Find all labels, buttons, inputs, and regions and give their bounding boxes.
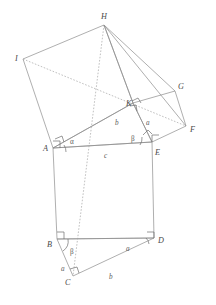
side-label-a-left: a — [61, 265, 65, 273]
line-H-to-G — [104, 25, 175, 91]
vertex-label-H: H — [100, 12, 108, 21]
side-label-b-upper: b — [115, 119, 119, 127]
right-angle-mark-B — [57, 232, 64, 239]
vertex-label-E: E — [154, 148, 160, 157]
angle-arc-beta-E — [140, 137, 142, 145]
angle-label-beta-E: β — [131, 135, 135, 143]
dash-I-to-F — [23, 59, 186, 126]
angle-label-beta-B: β — [70, 248, 74, 256]
vertex-label-K: K — [125, 99, 132, 108]
right-angle-mark-D — [147, 232, 154, 238]
side-label-a-right: a — [126, 245, 130, 253]
geometric-figure: H I G K F A E B D C α b a β c β a a b — [0, 0, 216, 305]
right-angle-mark-E-inner — [152, 135, 159, 142]
vertex-label-C: C — [65, 278, 71, 287]
angle-arc-alpha-A — [64, 145, 66, 152]
line-H-to-F — [104, 25, 186, 126]
side-label-c-middle: c — [104, 152, 108, 160]
vertex-label-A: A — [42, 144, 49, 153]
vertex-label-D: D — [157, 236, 164, 245]
vertex-label-G: G — [178, 82, 184, 91]
line-H-to-K — [104, 25, 133, 103]
triangle-BCD — [57, 238, 154, 276]
angle-arc-beta-B — [63, 239, 68, 251]
vertex-label-F: F — [189, 125, 196, 134]
square-on-side-b — [23, 25, 133, 148]
side-label-a-upper: a — [146, 119, 150, 127]
diagram-canvas: H I G K F A E B D C α b a β c β a a b — [0, 0, 216, 305]
side-label-b-bottom: b — [109, 273, 113, 281]
vertex-label-B: B — [47, 240, 52, 249]
triangle-AKE — [53, 103, 152, 148]
vertex-label-I: I — [14, 54, 19, 63]
angle-label-alpha-A: α — [70, 138, 74, 146]
